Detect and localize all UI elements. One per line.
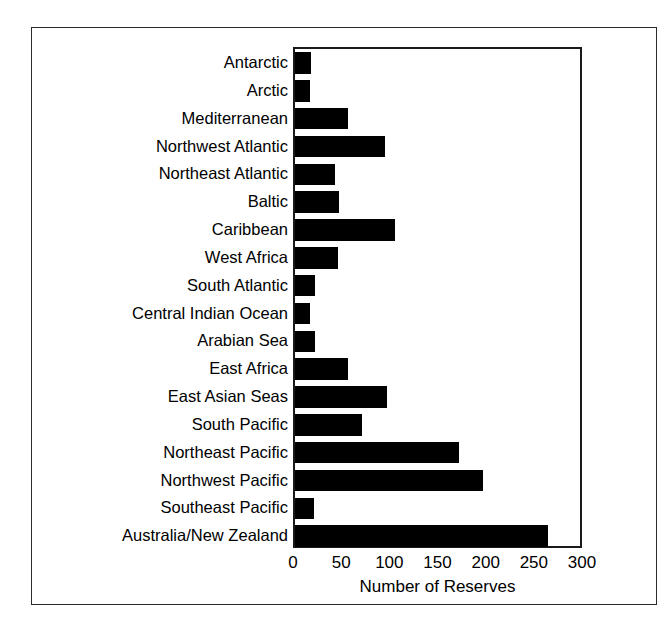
bar xyxy=(295,331,315,353)
bar-row: South Pacific xyxy=(295,411,580,439)
x-axis-tick-labels: 050100150200250300 xyxy=(293,552,582,576)
bar xyxy=(295,219,395,241)
bar xyxy=(295,191,339,213)
x-tick-label: 150 xyxy=(423,552,451,574)
category-label: Mediterranean xyxy=(38,105,295,133)
bar-row: Central Indian Ocean xyxy=(295,300,580,328)
category-label: South Atlantic xyxy=(38,272,295,300)
bar xyxy=(295,414,362,436)
category-label: Arctic xyxy=(38,77,295,105)
bar xyxy=(295,80,310,102)
bar-row: Northwest Atlantic xyxy=(295,133,580,161)
category-label: South Pacific xyxy=(38,411,295,439)
bar-row: Northeast Atlantic xyxy=(295,160,580,188)
bar-row: Antarctic xyxy=(295,49,580,77)
bar-row: Arabian Sea xyxy=(295,327,580,355)
category-label: Southeast Pacific xyxy=(38,494,295,522)
bar-row: Mediterranean xyxy=(295,105,580,133)
category-label: East Africa xyxy=(38,355,295,383)
category-label: Caribbean xyxy=(38,216,295,244)
bar xyxy=(295,470,483,492)
chart-figure: AntarcticArcticMediterraneanNorthwest At… xyxy=(31,27,657,605)
category-label: Baltic xyxy=(38,188,295,216)
bar xyxy=(295,136,385,158)
x-tick-label: 250 xyxy=(520,552,548,574)
bar-row: West Africa xyxy=(295,244,580,272)
bar xyxy=(295,498,314,520)
bar-row: South Atlantic xyxy=(295,272,580,300)
category-label: West Africa xyxy=(38,244,295,272)
bar-row: East Africa xyxy=(295,355,580,383)
x-tick-label: 100 xyxy=(375,552,403,574)
category-label: Northeast Atlantic xyxy=(38,160,295,188)
bar-row: Southeast Pacific xyxy=(295,494,580,522)
bar-row: Australia/New Zealand xyxy=(295,522,580,550)
category-label: Northwest Pacific xyxy=(38,467,295,495)
category-label: Australia/New Zealand xyxy=(38,522,295,550)
plot-area: AntarcticArcticMediterraneanNorthwest At… xyxy=(293,47,582,548)
bar xyxy=(295,386,387,408)
bar xyxy=(295,52,311,74)
category-label: Arabian Sea xyxy=(38,327,295,355)
category-label: Antarctic xyxy=(38,49,295,77)
x-tick-label: 0 xyxy=(288,552,297,574)
bar-row: Arctic xyxy=(295,77,580,105)
bar-row: Caribbean xyxy=(295,216,580,244)
bar xyxy=(295,358,348,380)
x-axis-title: Number of Reserves xyxy=(293,577,582,597)
x-tick-label: 300 xyxy=(568,552,596,574)
category-label: Northeast Pacific xyxy=(38,439,295,467)
bar xyxy=(295,164,335,186)
category-label: Central Indian Ocean xyxy=(38,300,295,328)
bar-row: Baltic xyxy=(295,188,580,216)
bar xyxy=(295,442,459,464)
bar xyxy=(295,525,548,547)
bar xyxy=(295,275,315,297)
category-label: East Asian Seas xyxy=(38,383,295,411)
bar xyxy=(295,247,338,269)
x-tick-label: 50 xyxy=(332,552,351,574)
x-tick-label: 200 xyxy=(471,552,499,574)
category-label: Northwest Atlantic xyxy=(38,133,295,161)
bar xyxy=(295,108,348,130)
bar xyxy=(295,303,310,325)
bar-row: Northeast Pacific xyxy=(295,439,580,467)
bar-row: East Asian Seas xyxy=(295,383,580,411)
bar-row: Northwest Pacific xyxy=(295,467,580,495)
